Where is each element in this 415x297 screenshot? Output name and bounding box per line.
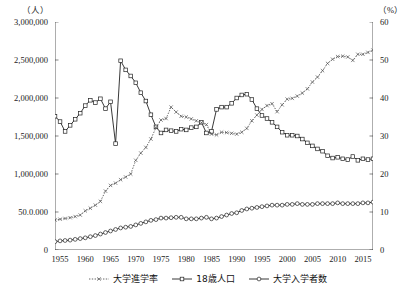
data-point-marker (230, 212, 234, 216)
data-point-marker (149, 218, 153, 222)
data-point-marker (83, 236, 87, 240)
data-point-marker (285, 203, 289, 207)
series-line (55, 202, 373, 242)
chart-container: （人） （%） 3,000,0002,500,0002,000,0001,500… (0, 0, 415, 297)
data-point-marker (366, 201, 370, 205)
legend-marker-circle-icon (248, 274, 270, 284)
data-point-marker (260, 205, 264, 209)
data-point-marker (371, 157, 373, 161)
right-axis-tick: 40 (380, 93, 404, 103)
data-point-marker (88, 235, 92, 239)
legend-item[interactable]: 18歳人口 (171, 272, 234, 285)
data-point-marker (109, 229, 113, 233)
legend-item[interactable]: 大学入学者数 (248, 272, 327, 285)
data-point-marker (366, 158, 370, 162)
legend-label: 大学進学率 (113, 272, 158, 285)
data-point-marker (311, 144, 315, 148)
right-axis-tick: 20 (380, 169, 404, 179)
right-axis-unit-label: （%） (378, 3, 403, 15)
data-point-marker (179, 127, 183, 131)
data-point-marker (174, 130, 178, 134)
data-point-marker (68, 124, 72, 128)
data-point-marker (159, 131, 163, 135)
data-point-marker (341, 157, 345, 161)
data-point-marker (225, 105, 229, 109)
data-point-marker (144, 220, 148, 224)
data-point-marker (257, 277, 261, 281)
data-point-marker (346, 158, 350, 162)
data-point-marker (290, 133, 294, 137)
series-18歳人口 (55, 59, 373, 162)
data-point-marker (68, 238, 72, 242)
data-point-marker (301, 137, 305, 141)
legend-label: 18歳人口 (196, 272, 234, 285)
data-point-marker (104, 107, 108, 111)
data-point-marker (63, 239, 67, 243)
data-point-marker (225, 213, 229, 217)
data-point-marker (305, 203, 309, 207)
data-point-marker (255, 107, 259, 111)
data-point-marker (290, 203, 294, 207)
data-point-marker (351, 202, 355, 206)
data-point-marker (295, 202, 299, 206)
right-axis-tick: 50 (380, 55, 404, 65)
data-point-marker (346, 202, 350, 206)
data-point-marker (189, 126, 193, 130)
data-point-marker (205, 215, 209, 219)
legend-label: 大学入学者数 (273, 272, 327, 285)
data-point-marker (73, 117, 77, 121)
plot-area (55, 22, 373, 250)
data-point-marker (311, 203, 315, 207)
data-point-marker (275, 125, 279, 129)
data-point-marker (235, 96, 239, 100)
data-point-marker (356, 202, 360, 206)
data-point-marker (139, 222, 143, 226)
data-point-marker (260, 114, 264, 118)
data-point-marker (215, 216, 219, 220)
left-axis-tick: 50.0.000 (0, 207, 48, 217)
data-point-marker (139, 91, 143, 95)
data-point-marker (316, 147, 320, 151)
data-point-marker (341, 202, 345, 206)
data-point-marker (114, 142, 118, 146)
data-point-marker (316, 202, 320, 206)
data-point-marker (169, 129, 173, 133)
series-大学入学者数 (55, 200, 373, 243)
data-point-marker (240, 93, 244, 97)
series-canvas (55, 22, 373, 250)
data-point-marker (361, 157, 365, 161)
data-point-marker (361, 201, 365, 205)
series-大学進学率 (55, 48, 373, 221)
x-axis-tick: 2015 (346, 254, 380, 264)
data-point-marker (99, 97, 103, 101)
left-axis-tick: 3,000,000 (0, 17, 48, 27)
data-point-marker (371, 200, 373, 204)
data-point-marker (149, 113, 153, 117)
data-point-marker (245, 92, 249, 96)
data-point-marker (63, 130, 67, 134)
data-point-marker (356, 159, 360, 163)
data-point-marker (270, 121, 274, 125)
right-axis-tick: 10 (380, 207, 404, 217)
legend-item[interactable]: 大学進学率 (88, 272, 158, 285)
data-point-marker (300, 203, 304, 207)
data-point-marker (195, 125, 199, 129)
data-point-marker (205, 131, 209, 135)
data-point-marker (180, 277, 184, 281)
data-point-marker (210, 217, 214, 221)
data-point-marker (280, 203, 284, 207)
data-point-marker (114, 228, 118, 232)
data-point-marker (174, 215, 178, 219)
data-point-marker (93, 234, 97, 238)
left-axis-tick: 0 (0, 245, 48, 255)
right-axis-tick: 30 (380, 131, 404, 141)
legend-marker-cross-icon (88, 274, 110, 284)
data-point-marker (104, 231, 108, 235)
data-point-marker (326, 202, 330, 206)
data-point-marker (331, 156, 335, 160)
left-axis-tick: 1,000,000 (0, 169, 48, 179)
data-point-marker (119, 59, 123, 63)
data-point-marker (321, 149, 325, 153)
data-point-marker (336, 201, 340, 205)
data-point-marker (199, 216, 203, 220)
